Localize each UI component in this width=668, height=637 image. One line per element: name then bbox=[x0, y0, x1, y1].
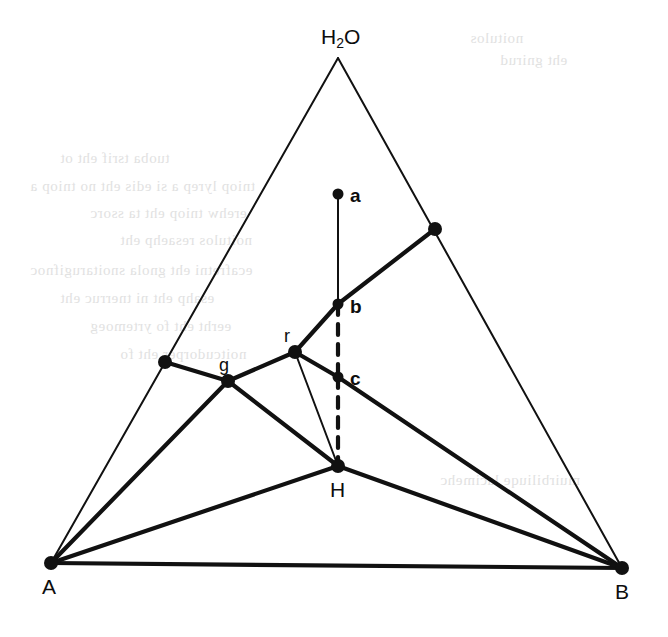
point-node-H bbox=[331, 459, 345, 473]
corner-node-b bbox=[615, 561, 629, 575]
edge-r-to-b bbox=[295, 304, 338, 352]
point-node-b bbox=[333, 299, 344, 310]
point-label-h: H bbox=[330, 479, 345, 500]
corner-label-b: B bbox=[615, 581, 629, 602]
edge-H2O-to-A bbox=[51, 58, 338, 563]
edge-c-to-B bbox=[338, 377, 622, 568]
edge-g-to-r bbox=[228, 352, 295, 381]
point-node-g bbox=[221, 374, 235, 388]
point-label-a: a bbox=[350, 186, 361, 205]
point-label-c: c bbox=[350, 369, 361, 388]
point-label-r: r bbox=[284, 327, 290, 345]
point-node-n-left bbox=[158, 355, 172, 369]
edge-H-to-B bbox=[338, 466, 622, 568]
corner-node-a bbox=[44, 556, 58, 570]
edge-r-to-c bbox=[295, 352, 338, 377]
phase-diagram-canvas bbox=[0, 0, 668, 637]
ternary-diagram-figure: noituloseht gnirudtuoba tsrif eht ottnio… bbox=[0, 0, 668, 637]
point-node-r bbox=[288, 345, 302, 359]
point-node-n-right bbox=[428, 222, 442, 236]
apex-label-o: O bbox=[344, 25, 360, 48]
point-label-g: g bbox=[219, 356, 229, 374]
apex-label-h: H bbox=[321, 25, 336, 48]
edge-b-to-n-right bbox=[338, 229, 435, 304]
apex-label-subscript: 2 bbox=[336, 35, 344, 51]
apex-label-h2o: H2O bbox=[321, 26, 360, 50]
diagram-nodes bbox=[44, 189, 629, 576]
edge-A-to-H bbox=[51, 466, 338, 563]
point-node-c bbox=[333, 372, 344, 383]
corner-label-a: A bbox=[42, 576, 56, 597]
point-label-b: b bbox=[350, 297, 362, 316]
edge-H2O-to-B bbox=[338, 58, 622, 568]
edge-A-to-B bbox=[51, 563, 622, 568]
point-node-a bbox=[333, 189, 344, 200]
